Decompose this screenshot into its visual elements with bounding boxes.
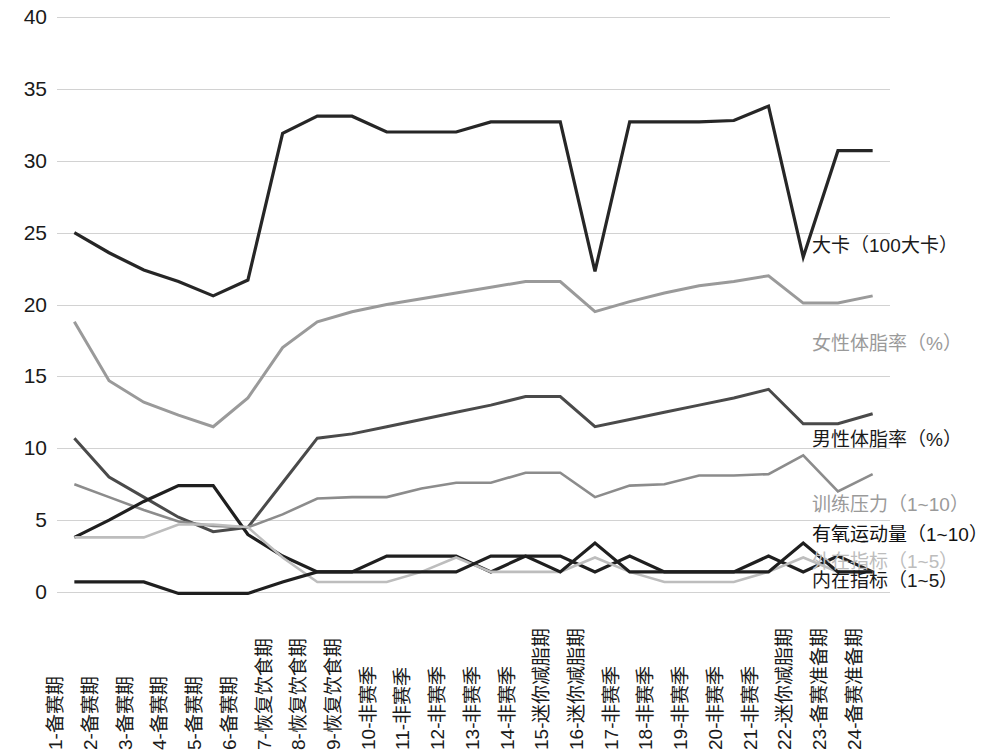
x-tick-label: 24-备赛准备期 (845, 628, 864, 750)
y-tick-label: 25 (24, 222, 47, 243)
x-tick-label: 22-迷你减脂期 (775, 628, 794, 750)
x-tick-label: 7-恢复饮食期 (255, 638, 274, 750)
series-line (74, 486, 872, 572)
series-label-2: 女性体脂率（%） (812, 334, 962, 353)
x-tick-label: 5-备赛期 (185, 676, 204, 750)
series-canvas (57, 17, 890, 592)
series-label-7: 内在指标（1~5） (812, 571, 958, 590)
y-tick-label: 20 (24, 294, 47, 315)
x-tick-label: 9-恢复饮食期 (324, 638, 343, 750)
y-tick-label: 30 (24, 150, 47, 171)
y-axis: 0510152025303540 (0, 17, 47, 592)
y-tick-label: 35 (24, 78, 47, 99)
series-label-1: 大卡（100大卡） (812, 236, 958, 255)
series-label-5: 有氧运动量（1~10） (812, 525, 988, 544)
y-tick-label: 40 (24, 6, 47, 27)
x-tick-label: 23-备赛准备期 (810, 628, 829, 750)
x-tick-label: 21-非赛季 (741, 666, 760, 750)
y-tick-label: 15 (24, 365, 47, 386)
y-tick-label: 10 (24, 437, 47, 458)
line-chart: 0510152025303540 1-备赛期2-备赛期3-备赛期4-备赛期5-备… (0, 0, 997, 752)
x-tick-label: 2-备赛期 (81, 676, 100, 750)
chart-title-clipped (0, 0, 997, 9)
x-tick-label: 1-备赛期 (46, 676, 65, 750)
x-tick-label: 8-恢复饮食期 (289, 638, 308, 750)
series-line (74, 543, 872, 593)
x-axis: 1-备赛期2-备赛期3-备赛期4-备赛期5-备赛期6-备赛期7-恢复饮食期8-恢… (57, 596, 890, 752)
x-tick-label: 6-备赛期 (220, 676, 239, 750)
x-tick-label: 17-非赛季 (602, 666, 621, 750)
x-tick-label: 12-非赛季 (428, 666, 447, 750)
x-tick-label: 13-非赛季 (463, 666, 482, 750)
series-line (74, 389, 872, 531)
series-line (74, 106, 872, 296)
series-line (74, 276, 872, 427)
x-tick-label: 16-迷你减脂期 (567, 628, 586, 750)
y-tick-label: 0 (35, 581, 47, 602)
series-label-3: 男性体脂率（%） (812, 430, 962, 449)
x-tick-label: 10-非赛季 (359, 666, 378, 750)
x-tick-label: 18-非赛季 (636, 666, 655, 750)
series-label-6: 外在指标（1~5） (812, 552, 958, 571)
x-tick-label: 15-迷你减脂期 (532, 628, 551, 750)
x-tick-label: 14-非赛季 (498, 666, 517, 750)
x-tick-label: 20-非赛季 (706, 666, 725, 750)
x-tick-label: 3-备赛期 (116, 676, 135, 750)
x-tick-label: 4-备赛期 (150, 676, 169, 750)
y-tick-label: 5 (35, 509, 47, 530)
x-tick-label: 11-非赛季 (393, 667, 412, 750)
series-label-4: 训练压力（1~10） (812, 495, 969, 514)
x-tick-label: 19-非赛季 (671, 666, 690, 750)
series-line (74, 455, 872, 527)
